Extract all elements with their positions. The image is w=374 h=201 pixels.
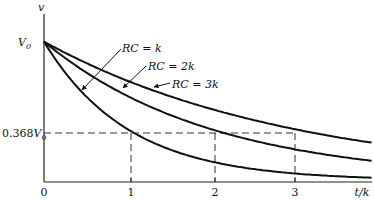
level-label: 0.368V0 xyxy=(2,127,47,142)
y-axis-label: v xyxy=(38,1,45,14)
curve-rc-2k xyxy=(44,42,372,161)
leader-rc-k xyxy=(82,49,121,90)
curve-rc-k xyxy=(44,42,372,178)
label-rc-2k: RC = 2k xyxy=(147,60,195,73)
reference-lines xyxy=(44,133,295,182)
x-tick-label-0: 0 xyxy=(41,186,48,199)
rc-discharge-chart: v V0 0.368V0 0 1 2 3 t/k RC = k RC = 2k … xyxy=(0,0,374,201)
x-tick-label-2: 2 xyxy=(212,186,219,199)
v0-label: V0 xyxy=(18,36,31,51)
label-rc-3k: RC = 3k xyxy=(171,78,219,91)
x-axis-label: t/k xyxy=(355,186,370,199)
leader-rc-2k xyxy=(123,66,146,88)
x-tick-label-3: 3 xyxy=(292,186,299,199)
label-rc-k: RC = k xyxy=(121,42,162,55)
leader-rc-3k xyxy=(154,83,170,87)
x-tick-label-1: 1 xyxy=(128,186,135,199)
